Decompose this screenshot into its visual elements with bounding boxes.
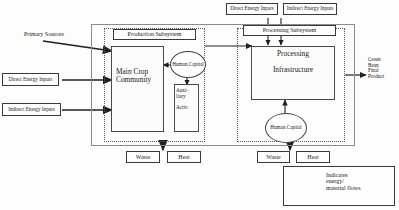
top-direct-energy-input-box: Direct Energy Inputs: [226, 3, 278, 15]
primary-sources-label: Primary Sources: [24, 31, 64, 37]
final-product-label: Green Bean Final Product: [368, 57, 384, 79]
legend-text: Indicates energy/ material flows: [326, 172, 361, 191]
processing-waste-box: Waste: [257, 151, 290, 163]
main-crop-community-box: [111, 46, 164, 132]
processing-infrastructure-label: Processing Infrastructure: [260, 50, 326, 74]
diagram-canvas: Direct Energy Inputs Indirect Energy Inp…: [0, 0, 399, 210]
processing-subsystem-title: Processing Subsystem: [243, 25, 336, 36]
production-human-capital-ellipse: Human Capital: [170, 51, 206, 78]
top-indirect-energy-input-box: Indirect Energy Inputs: [283, 3, 337, 15]
production-subsystem-title: Production Subsystem: [113, 29, 196, 40]
processing-heat-box: Heat: [296, 151, 330, 163]
main-crop-community-label: Main Crop Community: [116, 68, 151, 84]
left-direct-energy-input-box: Direct Energy Inputs: [2, 73, 59, 86]
production-waste-box: Waste: [126, 151, 160, 163]
processing-human-capital-ellipse: Human Capital: [265, 113, 307, 143]
production-heat-box: Heat: [167, 151, 201, 163]
left-indirect-energy-input-box: Indirect Energy Inputs: [2, 103, 61, 116]
auxiliary-activities-label: Auxi- liary Activ: [176, 88, 188, 110]
